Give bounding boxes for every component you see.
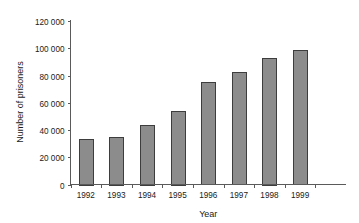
y-axis-tick-label: 20 000 — [39, 154, 64, 163]
y-axis-tick-labels: 020 00040 00060 00080 000100 000120 000 — [35, 18, 65, 191]
chart-canvas: 020 00040 00060 00080 000100 000120 000 … — [0, 0, 359, 223]
y-axis-tick-label: 60 000 — [39, 100, 64, 109]
x-axis-tick-label: 1998 — [260, 191, 279, 200]
bar-1999 — [294, 51, 308, 185]
y-axis-tick-label: 100 000 — [35, 45, 65, 54]
x-axis-tick-labels: 19921993199419951996199719981999 — [77, 191, 310, 200]
bar-1993 — [110, 138, 124, 186]
x-axis-tick-label: 1994 — [138, 191, 157, 200]
x-axis-title: Year — [199, 209, 217, 219]
bar-chart-figure: 020 00040 00060 00080 000100 000120 000 … — [0, 0, 359, 223]
bar-1995 — [172, 112, 186, 186]
bar-1992 — [80, 140, 94, 186]
bar-1996 — [202, 83, 216, 185]
x-axis-tick-label: 1996 — [199, 191, 218, 200]
x-axis-tick-label: 1999 — [291, 191, 310, 200]
y-axis-tick-label: 120 000 — [35, 18, 65, 27]
x-axis-tick-label: 1997 — [230, 191, 249, 200]
y-axis-tick-label: 40 000 — [39, 127, 64, 136]
x-axis-tick-label: 1992 — [77, 191, 96, 200]
y-axis-title: Number of prisoners — [15, 61, 25, 143]
y-axis-tick-label: 80 000 — [39, 73, 64, 82]
x-axis-tick-label: 1995 — [169, 191, 188, 200]
y-axis-tick-label: 0 — [60, 182, 65, 191]
bar-1994 — [141, 126, 155, 186]
bar-1998 — [263, 59, 277, 186]
bar-1997 — [233, 73, 247, 185]
bar-group — [80, 51, 308, 186]
x-axis-tick-label: 1993 — [107, 191, 126, 200]
